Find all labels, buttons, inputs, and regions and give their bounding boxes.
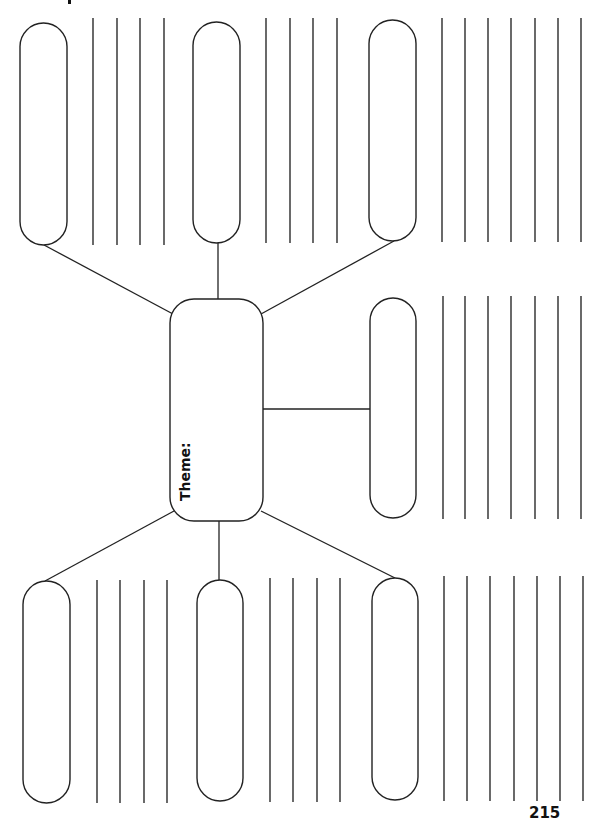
branch-node-bottom-left[interactable] [23,581,70,803]
page-number: 215 [529,804,560,822]
connector-top-right [261,241,394,314]
central-theme-node[interactable]: Theme: [170,440,200,502]
theme-label: Theme: [177,439,193,501]
branch-node-bottom-right[interactable] [372,578,418,800]
branch-node-bottom-middle[interactable] [197,580,243,801]
connector-bottom-right [261,511,395,578]
branch-node-top-right[interactable] [369,20,416,241]
writing-lines [93,18,583,803]
mind-map-diagram [0,0,602,830]
connector-bottom-left [45,511,174,581]
branch-node-top-left[interactable] [20,23,67,245]
connector-top-left [44,245,173,314]
branch-node-middle-right[interactable] [370,298,416,518]
nodes [20,20,418,803]
branch-node-top-middle[interactable] [193,22,240,243]
